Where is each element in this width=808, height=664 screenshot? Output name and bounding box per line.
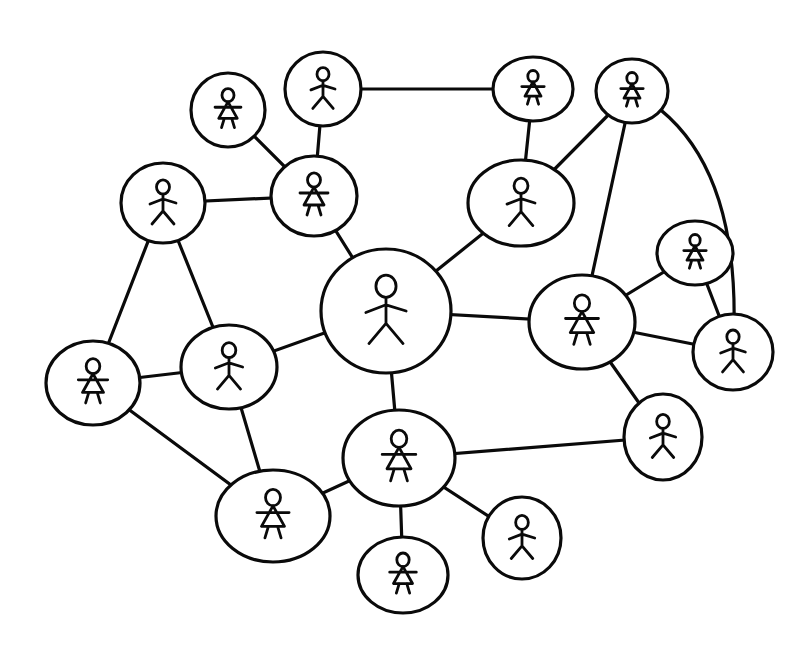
person-node-n6 xyxy=(271,156,357,236)
person-node-n15 xyxy=(343,410,455,506)
person-node-n4 xyxy=(596,59,668,123)
person-node-n9 xyxy=(657,221,733,285)
person-node-n14 xyxy=(624,394,702,480)
network-svg xyxy=(0,0,808,664)
person-node-n12 xyxy=(46,341,140,425)
network-diagram xyxy=(0,0,808,664)
node-circle xyxy=(596,59,668,123)
person-node-n3 xyxy=(493,57,573,121)
person-node-n16 xyxy=(216,470,330,562)
person-node-n10 xyxy=(529,275,635,369)
node-circle xyxy=(343,410,455,506)
node-circle xyxy=(46,341,140,425)
person-node-n18 xyxy=(358,537,448,613)
node-circle xyxy=(657,221,733,285)
person-node-n8 xyxy=(321,249,451,373)
node-circle xyxy=(493,57,573,121)
person-node-n5 xyxy=(121,163,205,243)
node-circle xyxy=(271,156,357,236)
person-node-n11 xyxy=(693,314,773,390)
person-node-n1 xyxy=(191,73,265,147)
person-node-n17 xyxy=(483,497,561,579)
person-node-n13 xyxy=(181,325,277,409)
node-circle xyxy=(216,470,330,562)
person-node-n2 xyxy=(285,52,361,126)
node-circle xyxy=(529,275,635,369)
node-circle xyxy=(358,537,448,613)
node-circle xyxy=(191,73,265,147)
node-layer xyxy=(46,52,773,613)
person-node-n7 xyxy=(468,160,574,246)
